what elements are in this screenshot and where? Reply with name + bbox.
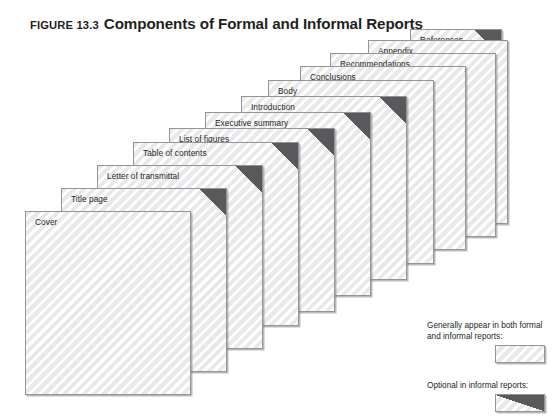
- legend-item: Generally appear in both formal and info…: [427, 320, 545, 363]
- optional-corner-icon: [236, 166, 262, 192]
- report-page-label: Introduction: [251, 103, 295, 111]
- report-page-label: Executive summary: [215, 119, 288, 127]
- legend-item-label: Optional in informal reports:: [427, 380, 545, 391]
- report-page-label: Table of contents: [143, 149, 207, 157]
- legend: Generally appear in both formal and info…: [427, 320, 545, 412]
- optional-corner-icon: [344, 113, 370, 139]
- report-page-label: Body: [278, 87, 297, 95]
- report-page: Cover: [25, 211, 191, 395]
- figure-root: FIGURE 13.3Components of Formal and Info…: [0, 0, 552, 419]
- report-page-label: Title page: [71, 195, 108, 203]
- optional-corner-icon: [200, 189, 226, 215]
- legend-swatch-row: [427, 345, 545, 363]
- report-page-label: Cover: [35, 218, 57, 226]
- legend-item-label: Generally appear in both formal and info…: [427, 320, 545, 342]
- legend-item: Optional in informal reports:: [427, 380, 545, 412]
- optional-corner-icon: [272, 143, 298, 169]
- optional-page-swatch: [495, 394, 545, 412]
- legend-swatch-row: [427, 394, 545, 412]
- report-page-label: Letter of transmittal: [107, 172, 179, 180]
- optional-corner-icon: [380, 97, 406, 123]
- plain-page-swatch: [495, 345, 545, 363]
- optional-corner-icon: [308, 129, 334, 155]
